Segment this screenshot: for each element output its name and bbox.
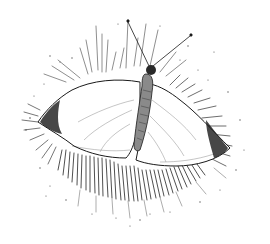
illustration-canvas (0, 0, 270, 244)
wings (38, 80, 230, 166)
antennae (127, 20, 192, 66)
butterfly-illustration (0, 0, 270, 244)
